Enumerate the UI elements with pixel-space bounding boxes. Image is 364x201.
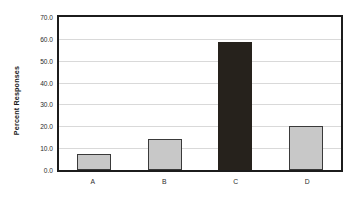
y-tick-label: 10.0 xyxy=(25,145,53,152)
y-tick-label: 20.0 xyxy=(25,123,53,130)
x-tick-label: D xyxy=(272,174,344,190)
y-tick-label: 0.0 xyxy=(25,167,53,174)
x-tick-label: C xyxy=(200,174,272,190)
bar-d xyxy=(289,126,323,170)
bar-slot xyxy=(59,17,130,170)
bars-layer xyxy=(59,17,341,170)
plot-area xyxy=(57,15,343,172)
y-axis-tick-labels: 70.060.050.040.030.020.010.00.0 xyxy=(25,15,53,172)
y-tick-label: 70.0 xyxy=(25,14,53,21)
x-axis-tick-labels: ABCD xyxy=(57,174,343,190)
bar-c xyxy=(218,42,252,170)
y-axis-title-text: Percent Responses xyxy=(13,66,22,135)
y-tick-label: 60.0 xyxy=(25,35,53,42)
bar-chart-figure: Percent Responses 70.060.050.040.030.020… xyxy=(0,0,364,201)
x-tick-label: B xyxy=(129,174,201,190)
bar-a xyxy=(77,154,111,170)
bar-slot xyxy=(271,17,342,170)
y-tick-label: 40.0 xyxy=(25,79,53,86)
bar-b xyxy=(148,139,182,170)
bar-slot xyxy=(200,17,271,170)
x-tick-label: A xyxy=(57,174,129,190)
y-tick-label: 50.0 xyxy=(25,57,53,64)
y-tick-label: 30.0 xyxy=(25,101,53,108)
bar-slot xyxy=(130,17,201,170)
